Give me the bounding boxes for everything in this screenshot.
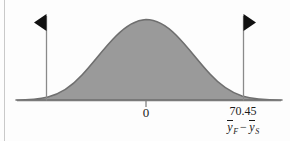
upper-bound-label: 70.45: [219, 105, 267, 117]
y-bar-first: y: [227, 121, 233, 133]
statistic-axis-label: yF−yS: [211, 121, 275, 136]
subscript-s: S: [255, 127, 259, 136]
y-bar-second: y: [249, 121, 255, 133]
center-tick-label: 0: [126, 106, 166, 119]
left-arrow-icon: [34, 14, 47, 31]
bell-curve-area: [16, 20, 282, 101]
minus-sign: −: [238, 120, 249, 134]
normal-curve-figure: 0 70.45 yF−yS: [0, 0, 290, 141]
right-arrow-icon: [244, 14, 257, 31]
